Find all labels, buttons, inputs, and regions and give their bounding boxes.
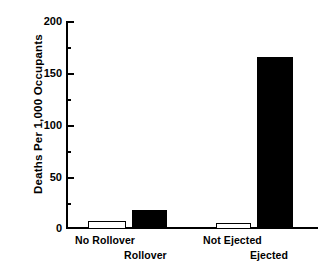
y-tick-major-100: [68, 125, 74, 127]
bar-rollover: [132, 210, 167, 229]
x-label-not-ejected: Not Ejected: [203, 234, 262, 246]
y-tick-major-50: [68, 177, 74, 179]
bar-not-ejected: [216, 223, 251, 229]
y-tick-label-150: 150: [22, 68, 62, 79]
y-tick-minor-75: [68, 151, 71, 153]
y-tick-major-200: [68, 21, 74, 23]
y-tick-label-50: 50: [22, 172, 62, 183]
x-label-rollover: Rollover: [124, 249, 167, 261]
y-tick-minor-125: [68, 99, 71, 101]
bar-ejected: [257, 57, 293, 229]
y-tick-minor-25: [68, 203, 71, 205]
x-label-ejected: Ejected: [250, 249, 288, 261]
y-axis-title: Deaths Per 1,000 Occupants: [32, 14, 44, 214]
bar-chart: Deaths Per 1,000 Occupants 200 150 100 5…: [0, 0, 328, 271]
y-tick-minor-175: [68, 47, 71, 49]
y-tick-major-150: [68, 73, 74, 75]
y-tick-label-100: 100: [22, 120, 62, 131]
y-tick-label-0: 0: [22, 223, 62, 234]
y-tick-label-200: 200: [22, 16, 62, 27]
bar-no-rollover: [88, 221, 126, 229]
x-label-no-rollover: No Rollover: [75, 234, 135, 246]
y-tick-major-0: [68, 227, 74, 229]
